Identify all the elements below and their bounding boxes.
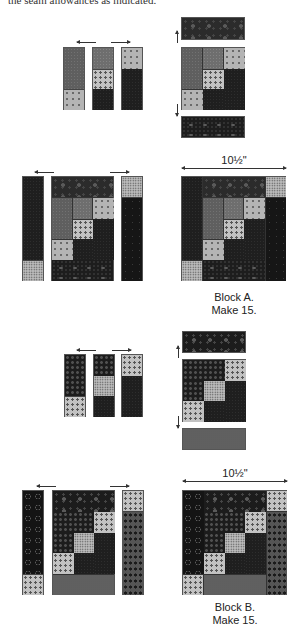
fabric-strip [52, 177, 113, 198]
fabric-square [122, 376, 142, 417]
fabric-square [23, 177, 43, 260]
fabric-square [203, 239, 224, 260]
fabric-square [225, 381, 246, 422]
fabric-strip [204, 491, 266, 512]
press-right-arrow-icon [111, 42, 130, 43]
fabric-square [204, 512, 245, 533]
fabric-strip [204, 574, 266, 595]
fabric-square [65, 355, 85, 396]
fabric-square [203, 48, 224, 69]
fabric-square [93, 48, 113, 69]
fabric-square [94, 355, 114, 376]
block-a-column-strip-1 [63, 47, 85, 110]
fabric-square [204, 553, 225, 574]
fabric-strip [265, 198, 286, 281]
block-a-caption: Block A. Make 15. [182, 291, 286, 317]
dimension-arrow-icon [183, 481, 287, 482]
fabric-square [203, 198, 224, 239]
fabric-square [53, 533, 74, 553]
fabric-square [73, 239, 93, 260]
fabric-square [93, 198, 114, 219]
fabric-square [244, 219, 265, 260]
fabric-square [225, 533, 245, 553]
block-a-caption-quantity: Make 15. [182, 304, 286, 317]
fabric-square [183, 401, 204, 422]
fabric-square [182, 48, 203, 89]
block-b-nine-patch [182, 359, 246, 422]
block-b-column-strip-3 [121, 354, 143, 417]
press-left-arrow-icon [77, 350, 96, 351]
fabric-square [122, 198, 142, 281]
fabric-square [203, 89, 224, 110]
fabric-square [122, 177, 142, 198]
dimension-arrow-icon [182, 168, 286, 169]
fabric-square [53, 512, 94, 533]
press-left-arrow-icon [35, 172, 54, 173]
press-right-arrow-icon [112, 350, 131, 351]
fabric-strip [182, 177, 203, 260]
fabric-square [224, 48, 245, 69]
block-b-column-strip-2 [93, 354, 115, 417]
block-b-right-side-strip [122, 490, 144, 595]
fabric-square [74, 553, 94, 574]
fabric-strip [183, 491, 204, 574]
fabric-square [94, 376, 114, 396]
block-a-nine-patch [181, 47, 245, 110]
block-a-top-strip [181, 17, 245, 40]
fabric-square [74, 533, 94, 553]
fabric-square [224, 69, 245, 110]
block-a-finished [181, 176, 286, 281]
block-b-left-side-strip [22, 490, 44, 595]
fabric-strip [23, 491, 43, 574]
intro-text: the seam allowances as indicated. [8, 0, 156, 6]
fabric-square [203, 69, 224, 89]
fabric-square [52, 198, 73, 239]
fabric-strip [53, 491, 114, 512]
fabric-square [94, 396, 114, 417]
block-a-dimension-label: 10½" [182, 154, 286, 166]
fabric-square [265, 177, 286, 198]
block-b-caption-quantity: Make 15. [183, 614, 287, 626]
press-left-arrow-icon [37, 486, 56, 487]
fabric-square [245, 512, 266, 533]
fabric-square [122, 69, 142, 110]
fabric-square [225, 360, 246, 381]
fabric-strip [266, 512, 287, 595]
fabric-square [183, 574, 204, 595]
fabric-square [52, 239, 73, 260]
fabric-square [182, 260, 203, 281]
block-b-caption: Block B. Make 15. [183, 601, 287, 626]
fabric-square [245, 533, 266, 574]
block-b-dimension-label: 10½" [183, 467, 287, 479]
block-a-bottom-strip [181, 116, 245, 138]
fabric-square [122, 48, 142, 69]
fabric-square [204, 401, 225, 422]
fabric-square [244, 198, 265, 219]
fabric-square [122, 355, 142, 376]
fabric-square [183, 360, 225, 381]
press-right-arrow-icon [110, 486, 129, 487]
fabric-strip [123, 512, 143, 595]
fabric-square [182, 89, 203, 110]
press-up-arrow-icon [178, 346, 179, 358]
fabric-strip [203, 260, 265, 281]
fabric-square [94, 533, 115, 574]
block-a-center-unit [51, 176, 114, 281]
fabric-square [64, 48, 84, 89]
block-b-caption-title: Block B. [183, 601, 287, 614]
fabric-square [123, 491, 143, 512]
fabric-square [65, 396, 85, 417]
press-left-arrow-icon [77, 42, 96, 43]
block-b-bottom-strip [182, 428, 246, 450]
block-a-column-strip-3 [121, 47, 143, 110]
fabric-square [204, 381, 225, 401]
press-right-arrow-icon [110, 172, 129, 173]
fabric-square [183, 381, 204, 401]
block-a-column-strip-2 [92, 47, 114, 110]
fabric-square [266, 491, 287, 512]
fabric-square [64, 89, 84, 110]
fabric-square [94, 512, 115, 533]
fabric-square [73, 219, 93, 239]
fabric-square [224, 219, 244, 239]
fabric-square [93, 89, 113, 110]
